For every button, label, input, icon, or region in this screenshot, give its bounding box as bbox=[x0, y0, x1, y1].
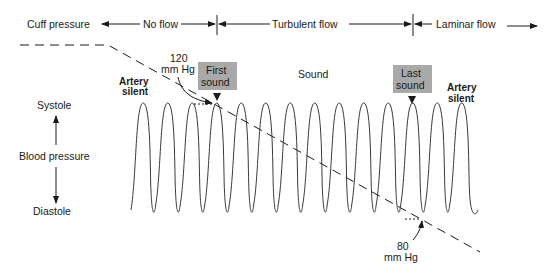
artery-silent-right-line1: Artery bbox=[447, 82, 477, 93]
blood-pressure-label: Blood pressure bbox=[19, 150, 90, 162]
last-sound-line1: Last bbox=[401, 67, 421, 79]
systolic-unit: mm Hg bbox=[161, 63, 195, 75]
artery-silent-right-line2: silent bbox=[448, 93, 475, 104]
diastolic-pointer-arrow bbox=[413, 221, 422, 240]
sound-label: Sound bbox=[298, 68, 329, 80]
last-sound-arrow bbox=[408, 96, 416, 104]
no-flow-label: No flow bbox=[143, 18, 178, 30]
artery-silent-left-line2: silent bbox=[122, 86, 149, 97]
first-sound-line2: sound bbox=[201, 76, 230, 88]
first-sound-arrow bbox=[213, 93, 221, 101]
first-sound-line1: First bbox=[206, 64, 226, 76]
systole-label: Systole bbox=[37, 99, 72, 111]
pressure-wave bbox=[131, 103, 478, 214]
laminar-flow-label: Laminar flow bbox=[436, 18, 496, 30]
korotkoff-diagram: Cuff pressure No flow Turbulent flow Lam… bbox=[0, 0, 548, 275]
cuff-pressure-label: Cuff pressure bbox=[27, 18, 90, 30]
turbulent-flow-label: Turbulent flow bbox=[272, 18, 338, 30]
diastolic-unit: mm Hg bbox=[384, 251, 418, 263]
last-sound-line2: sound bbox=[396, 79, 425, 91]
diastole-label: Diastole bbox=[33, 205, 71, 217]
